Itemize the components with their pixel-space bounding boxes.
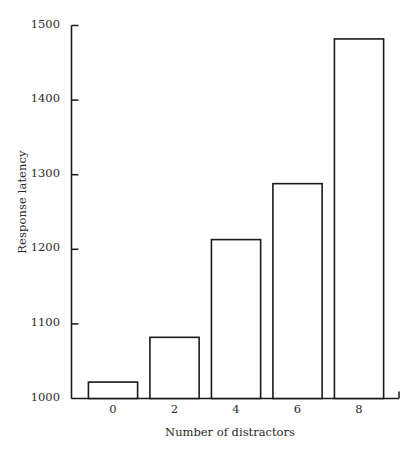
bar [334,39,383,399]
bar [273,184,322,399]
plot-area [0,0,411,451]
bar-group [211,240,260,399]
bar [150,337,199,398]
bar [88,382,137,398]
bar-chart-figure: Response latency Number of distractors 1… [0,0,411,451]
bar-group [273,184,322,399]
bar-group [88,382,137,398]
bar-group [334,39,383,399]
bar-group [150,337,199,398]
bar [211,240,260,399]
